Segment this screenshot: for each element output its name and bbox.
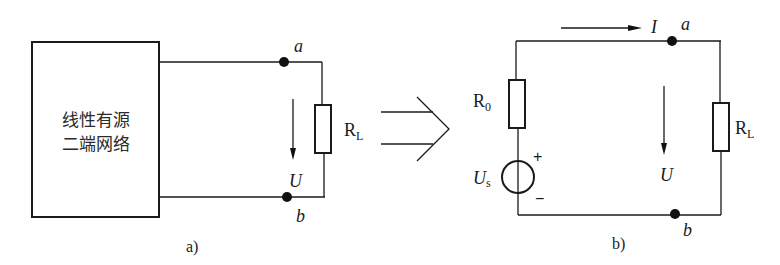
double-arrow-right-icon — [381, 97, 449, 161]
voltage-label-b: U — [660, 165, 674, 185]
terminal-b-dot-b — [670, 209, 680, 219]
terminal-a-label: a — [294, 36, 303, 56]
caption-b: b) — [612, 235, 625, 253]
source-resistor — [509, 80, 525, 128]
load-resistor-a — [315, 105, 331, 153]
load-resistor-label-a: RL — [344, 120, 363, 143]
terminal-b-label: b — [296, 206, 305, 226]
figure-b: R0 Us + − RL I a b U b) — [473, 14, 754, 253]
caption-a: a) — [186, 238, 198, 256]
terminal-b-dot — [282, 192, 292, 202]
current-arrowhead — [628, 25, 642, 31]
voltage-source-label: Us — [473, 168, 491, 190]
network-label-line1: 线性有源 — [62, 110, 130, 130]
current-label: I — [650, 17, 658, 37]
figure-a: 线性有源 二端网络 RL a b U a) — [32, 36, 363, 256]
voltage-arrowhead-a — [290, 148, 296, 160]
voltage-arrowhead-b — [661, 143, 667, 155]
terminal-a-label-b: a — [681, 14, 690, 34]
terminal-a-dot — [279, 57, 289, 67]
load-resistor-label-b: RL — [735, 118, 754, 141]
voltage-source-plus: + — [533, 148, 542, 165]
circuit-diagram: 线性有源 二端网络 RL a b U a) — [0, 0, 780, 265]
terminal-b-label-b: b — [683, 220, 692, 240]
network-label-line2: 二端网络 — [62, 134, 130, 154]
load-resistor-b — [713, 103, 729, 151]
voltage-label-a: U — [289, 171, 303, 191]
terminal-a-dot-b — [667, 36, 677, 46]
voltage-source-minus: − — [535, 190, 544, 207]
source-resistor-label: R0 — [473, 91, 491, 114]
